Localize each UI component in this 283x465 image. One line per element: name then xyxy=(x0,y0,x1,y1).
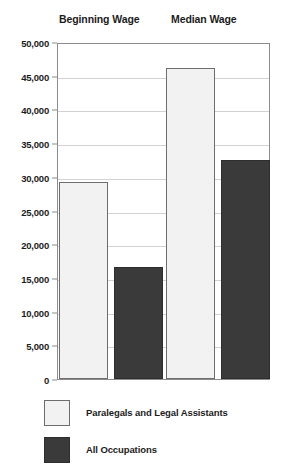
y-axis-tick-label: 10,000 xyxy=(21,307,49,318)
bar-paralegals-1 xyxy=(166,68,215,379)
y-axis-tick-label: 30,000 xyxy=(21,172,49,183)
plot-area xyxy=(57,43,270,380)
bar-paralegals-0 xyxy=(59,182,108,379)
y-axis-tick-label: 50,000 xyxy=(21,38,49,49)
legend-label-paralegals: Paralegals and Legal Assistants xyxy=(86,407,228,418)
y-axis-tick-label: 0 xyxy=(44,375,49,386)
y-axis-tick-label: 45,000 xyxy=(21,71,49,82)
group-header-median-wage: Median Wage xyxy=(171,13,237,25)
bar-all-occupations-1 xyxy=(221,160,270,379)
bar-all-occupations-0 xyxy=(114,267,163,379)
y-axis-tick-label: 15,000 xyxy=(21,273,49,284)
y-axis-tick-label: 25,000 xyxy=(21,206,49,217)
legend-label-all-occupations: All Occupations xyxy=(86,444,157,455)
y-axis-tick-label: 5,000 xyxy=(26,341,49,352)
bar-group-container xyxy=(58,44,269,379)
legend-swatch-icon-paralegals xyxy=(44,400,70,426)
legend-swatch-icon-all-occupations xyxy=(44,437,70,463)
y-axis: 50,00045,00040,00035,00030,00025,00020,0… xyxy=(0,43,57,380)
group-header-row: Beginning Wage Median Wage xyxy=(57,13,271,29)
group-header-beginning-wage: Beginning Wage xyxy=(59,13,139,25)
y-axis-tick-label: 35,000 xyxy=(21,139,49,150)
y-axis-tick-label: 20,000 xyxy=(21,240,49,251)
y-axis-tick-label: 40,000 xyxy=(21,105,49,116)
